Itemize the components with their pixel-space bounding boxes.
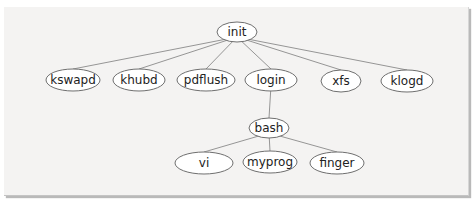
node-label: klogd	[391, 74, 424, 88]
node-klogd: klogd	[381, 70, 433, 92]
node-khubd: khubd	[113, 69, 165, 91]
nodes: initkswapdkhubdpdflushloginxfsklogdbashv…	[46, 22, 433, 174]
node-label: vi	[199, 156, 209, 170]
node-label: myprog	[247, 155, 293, 169]
node-label: login	[256, 73, 285, 87]
node-label: pdflush	[184, 73, 228, 87]
node-label: kswapd	[50, 73, 96, 87]
node-label: khubd	[120, 73, 157, 87]
node-pdflush: pdflush	[177, 69, 235, 91]
node-label: xfs	[332, 74, 350, 88]
node-init: init	[217, 22, 257, 42]
node-vi: vi	[175, 152, 233, 174]
node-label: bash	[255, 121, 284, 135]
node-xfs: xfs	[321, 70, 361, 92]
node-myprog: myprog	[243, 151, 297, 173]
edges	[73, 37, 407, 152]
node-bash: bash	[249, 118, 289, 138]
node-finger: finger	[310, 152, 364, 174]
process-tree-diagram: initkswapdkhubdpdflushloginxfsklogdbashv…	[0, 0, 475, 203]
edge-init-xfs	[237, 37, 341, 70]
node-label: finger	[319, 156, 354, 170]
node-kswapd: kswapd	[46, 69, 100, 91]
node-label: init	[228, 25, 247, 39]
node-login: login	[245, 69, 297, 91]
edge-init-klogd	[237, 37, 407, 70]
